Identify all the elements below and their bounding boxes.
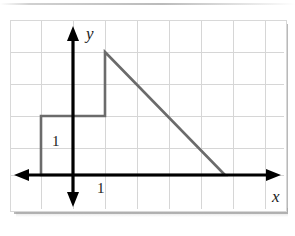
x-axis-label: x [272,188,280,205]
y-axis-label: y [86,25,94,42]
figure-root: y x 1 1 [0,0,295,236]
x-axis-arrow-left [14,169,29,181]
x-unit-length-label: 1 [97,181,105,196]
grid-horizontal-lines [11,53,284,176]
x-axis-arrow-right [266,169,281,181]
y-unit-length-label: 1 [52,134,60,149]
y-axis-arrow-down [67,192,79,207]
triangle-with-step-shape [41,52,225,175]
y-axis-arrow-up [67,26,79,41]
x-axis [14,169,281,181]
coordinate-plot [0,0,295,236]
